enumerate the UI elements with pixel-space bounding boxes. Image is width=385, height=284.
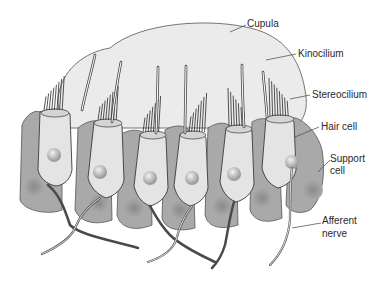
label-cupula: Cupula bbox=[247, 18, 279, 29]
label-support-cell-line2: cell bbox=[330, 165, 345, 176]
label-hair-cell: Hair cell bbox=[321, 121, 357, 132]
hair-cell-diagram: Cupula Kinocilium Stereocilium Hair cell… bbox=[0, 0, 385, 284]
label-stereocilium: Stereocilium bbox=[312, 89, 367, 100]
hair-cell bbox=[88, 119, 124, 198]
hair-cell bbox=[174, 131, 208, 206]
cupula bbox=[58, 23, 306, 128]
stereocilium bbox=[47, 93, 49, 110]
label-support-cell-line1: Support bbox=[330, 153, 365, 164]
stereocilium bbox=[44, 96, 46, 110]
hair-cell bbox=[220, 125, 254, 202]
label-afferent-nerve-line1: Afferent bbox=[322, 215, 357, 226]
hair-cell bbox=[134, 131, 168, 206]
stereocilium bbox=[54, 85, 56, 110]
hair-cell bbox=[38, 109, 72, 186]
label-afferent-nerve-line2: nerve bbox=[322, 228, 347, 239]
stereocilium bbox=[52, 88, 54, 110]
stereocilium bbox=[49, 91, 51, 110]
label-kinocilium: Kinocilium bbox=[298, 48, 344, 59]
